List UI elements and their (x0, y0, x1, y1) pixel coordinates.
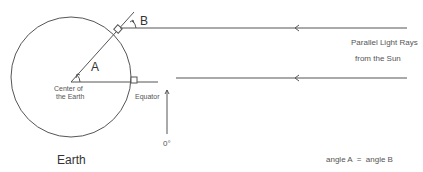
zero-degree-label: 0° (163, 139, 171, 148)
rays-label-line1: Parallel Light Rays (351, 38, 418, 47)
radius-line (71, 12, 134, 82)
angle-b-label: B (140, 14, 148, 28)
rays-label-line2: from the Sun (355, 54, 401, 63)
angle-a-label: A (91, 60, 99, 74)
angle-a-arc (77, 75, 80, 82)
center-label-line2: the Earth (56, 92, 84, 101)
angle-equation-label: angle A = angle B (326, 155, 393, 164)
earth-label: Earth (57, 153, 86, 167)
equator-marker (131, 77, 137, 83)
equator-label: Equator (135, 92, 160, 101)
